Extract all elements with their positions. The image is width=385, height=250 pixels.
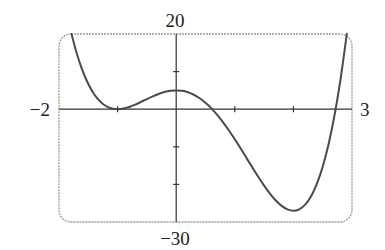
x-min-label: −2: [30, 99, 50, 120]
plot-area: 20 −30 −2 3: [0, 0, 385, 250]
x-max-label: 3: [360, 99, 370, 120]
function-curve: [72, 34, 347, 211]
y-min-label: −30: [160, 228, 190, 249]
viewing-window-frame: [59, 34, 352, 222]
y-max-label: 20: [166, 10, 185, 31]
